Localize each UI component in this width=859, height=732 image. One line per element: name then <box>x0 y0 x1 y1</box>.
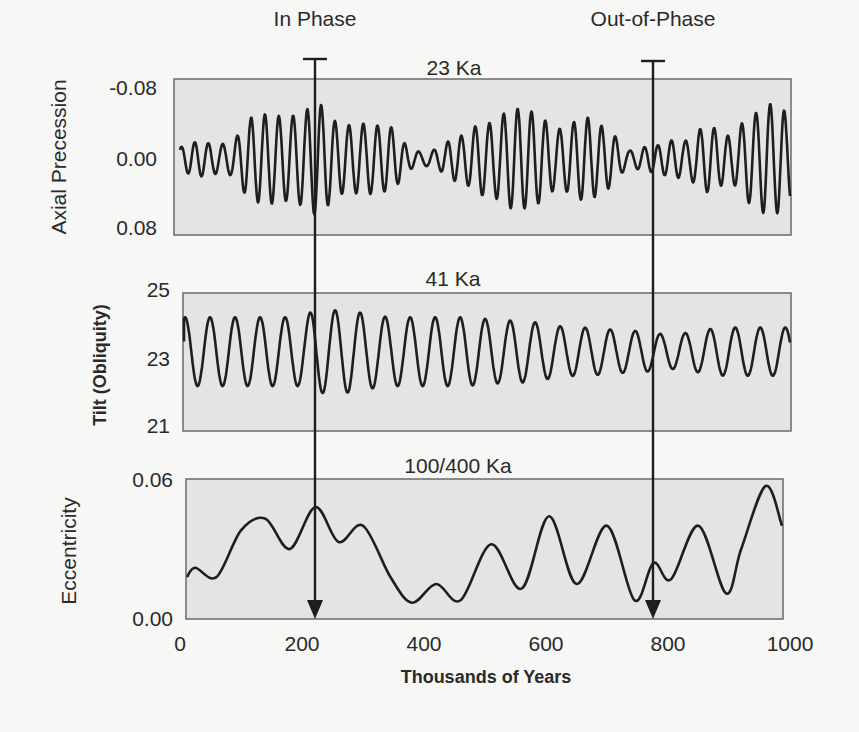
x-tick-800: 800 <box>650 632 685 655</box>
in-phase-label: In Phase <box>274 7 357 30</box>
ytick-precession-mid: 0.00 <box>116 147 157 170</box>
ylabel-precession: Axial Precession <box>47 79 70 234</box>
ytick-tilt-bottom: 21 <box>147 414 170 437</box>
period-label-100-400ka: 100/400 Ka <box>404 454 512 477</box>
ytick-precession-top: -0.08 <box>109 76 157 99</box>
x-tick-600: 600 <box>528 632 563 655</box>
panel-axial-precession: 23 Ka -0.08 0.00 0.08 Axial Precession <box>47 56 791 239</box>
plot-area-precession <box>174 79 791 235</box>
x-tick-1000: 1000 <box>767 632 814 655</box>
orbital-cycles-chart: 23 Ka -0.08 0.00 0.08 Axial Precession 4… <box>0 0 859 732</box>
x-axis-label: Thousands of Years <box>401 667 572 687</box>
x-tick-0: 0 <box>174 632 186 655</box>
ytick-tilt-mid: 23 <box>147 347 170 370</box>
period-label-23ka: 23 Ka <box>427 56 482 79</box>
ylabel-tilt: Tilt (Obliquity) <box>90 304 110 426</box>
ytick-ecc-top: 0.06 <box>132 468 173 491</box>
ytick-tilt-top: 25 <box>147 278 170 301</box>
x-tick-200: 200 <box>284 632 319 655</box>
ytick-precession-bottom: 0.08 <box>116 216 157 239</box>
plot-area-tilt <box>183 293 791 431</box>
x-tick-400: 400 <box>406 632 441 655</box>
panel-tilt-obliquity: 41 Ka 25 23 21 Tilt (Obliquity) <box>90 267 791 437</box>
ytick-ecc-bottom: 0.00 <box>132 607 173 630</box>
panel-eccentricity: 100/400 Ka 0.06 0.00 Eccentricity <box>57 454 783 630</box>
out-of-phase-label: Out-of-Phase <box>591 7 716 30</box>
x-axis: 02004006008001000 <box>174 632 813 655</box>
ylabel-eccentricity: Eccentricity <box>57 497 80 605</box>
period-label-41ka: 41 Ka <box>426 267 481 290</box>
